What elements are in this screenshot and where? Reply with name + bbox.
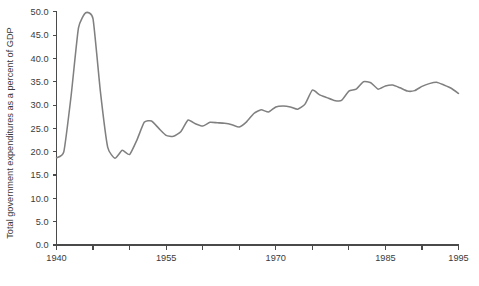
y-tick-label: 50.0 [31,7,49,17]
data-series-line [57,12,459,158]
y-tick-label: 5.0 [36,217,49,227]
chart-container: Total government expenditures as a perce… [0,0,479,286]
y-tick-label: 25.0 [31,124,49,134]
y-tick-label: 20.0 [31,147,49,157]
y-axis-ticks [53,12,57,245]
x-tick-label: 1995 [448,253,468,263]
y-axis-title: Total government expenditures as a perce… [5,27,15,238]
y-tick-label: 0.0 [36,240,49,250]
y-tick-label: 10.0 [31,194,49,204]
y-tick-label: 15.0 [31,170,49,180]
x-tick-label: 1955 [156,253,176,263]
y-tick-label: 45.0 [31,30,49,40]
x-tick-label: 1940 [46,253,66,263]
y-tick-label: 35.0 [31,77,49,87]
x-tick-label: 1970 [266,253,286,263]
y-tick-label: 30.0 [31,100,49,110]
x-tick-label: 1985 [375,253,395,263]
y-tick-label: 40.0 [31,54,49,64]
line-chart: Total government expenditures as a perce… [0,0,479,286]
y-axis-tick-labels: 0.05.010.015.020.025.030.035.040.045.050… [31,7,49,250]
x-axis-ticks [57,245,459,250]
x-axis-tick-labels: 19401955197019851995 [46,253,468,263]
